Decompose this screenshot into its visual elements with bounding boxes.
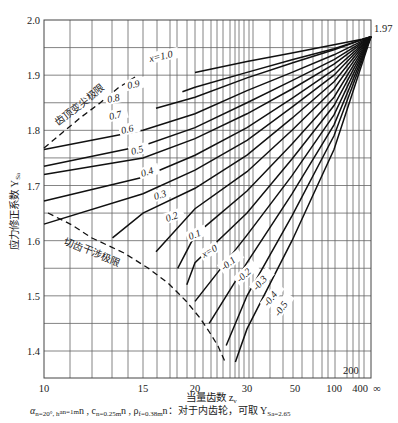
y-tick-label: 1.9 bbox=[27, 70, 40, 81]
curve-labels: x=1.00.90.80.70.60.50.40.30.20.1x=0-0.1-… bbox=[104, 47, 294, 320]
x-tick-label: 15 bbox=[138, 383, 149, 394]
curve-0.2 bbox=[113, 37, 372, 238]
y-tick-label: 1.6 bbox=[27, 236, 40, 247]
x-tick-label: 30 bbox=[242, 383, 253, 394]
x-tick-label: 10 bbox=[39, 383, 50, 394]
y-tick-label: 1.4 bbox=[27, 346, 41, 357]
y-tick-label: 1.7 bbox=[27, 181, 40, 192]
stress-correction-factor-chart: x=1.00.90.80.70.60.50.40.30.20.1x=0-0.1-… bbox=[0, 0, 398, 423]
svg-text:应力修正系数 YSa: 应力修正系数 YSa bbox=[8, 172, 22, 250]
x-axis-label: 当量齿数 zv bbox=[186, 391, 237, 405]
y-axis-label-sub: Sa bbox=[14, 172, 22, 180]
tip-sharpening-limit-label: 齿顶变尖极限 bbox=[52, 81, 107, 127]
y-tick-label: 1.8 bbox=[27, 125, 40, 136]
x-axis-label-main: 当量齿数 z bbox=[186, 391, 234, 403]
x-tick-label: 50 bbox=[290, 383, 301, 394]
x-tick-200: 200 bbox=[343, 365, 359, 376]
y-axis-label-main: 应力修正系数 Y bbox=[8, 179, 20, 250]
footnote: αn=20°, han=1mn , cn=0.25mn , ρf=0.38mn：… bbox=[30, 404, 291, 418]
x-tick-label: 400 bbox=[352, 383, 368, 394]
x-tick-label: ∞ bbox=[373, 383, 381, 394]
y-tick-label: 1.5 bbox=[27, 291, 40, 302]
curve-label: 0.9 bbox=[126, 78, 141, 91]
y-tick-label: 2.0 bbox=[27, 15, 40, 26]
curve-label: 0.6 bbox=[120, 122, 135, 136]
x-tick-label: 100 bbox=[326, 383, 342, 394]
x-axis-label-sub: v bbox=[233, 397, 237, 405]
y-axis-label: 应力修正系数 YSa bbox=[8, 172, 22, 250]
convergence-value: 1.97 bbox=[374, 23, 392, 34]
curve-0.1 bbox=[156, 37, 371, 252]
